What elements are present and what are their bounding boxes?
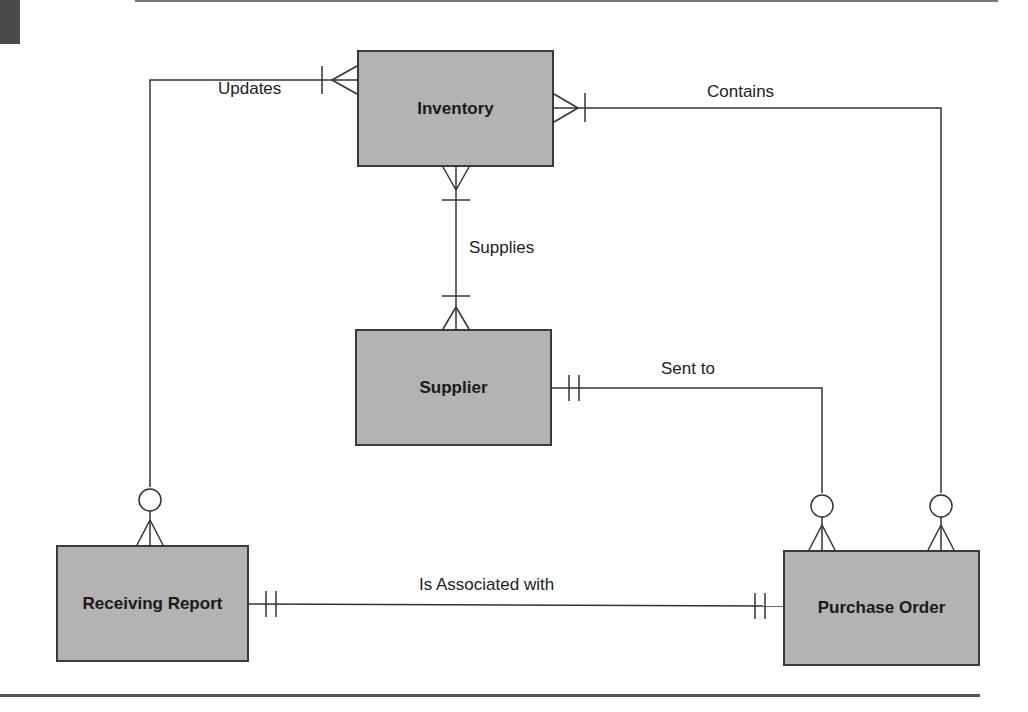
label-updates: Updates (218, 79, 281, 99)
bottom-rule (0, 694, 980, 697)
relationship-contains-line (554, 93, 954, 550)
entity-receiving-report-label: Receiving Report (83, 594, 223, 614)
entity-supplier: Supplier (355, 329, 552, 446)
entity-purchase-order: Purchase Order (783, 550, 980, 666)
label-sent-to: Sent to (661, 359, 715, 379)
entity-supplier-label: Supplier (419, 378, 487, 398)
label-contains: Contains (707, 82, 774, 102)
entity-receiving-report: Receiving Report (56, 545, 249, 662)
relationship-updates-line (137, 66, 357, 545)
label-supplies: Supplies (469, 238, 534, 258)
entity-purchase-order-label: Purchase Order (818, 598, 946, 618)
relationship-sent-to-line (552, 375, 835, 550)
label-is-associated-with: Is Associated with (419, 575, 554, 595)
entity-inventory-label: Inventory (417, 99, 494, 119)
entity-inventory: Inventory (357, 50, 554, 167)
relationship-associated-line (249, 591, 783, 619)
relationship-supplies-line (442, 167, 470, 329)
